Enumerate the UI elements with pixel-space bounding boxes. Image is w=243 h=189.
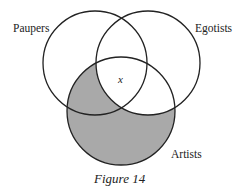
artists-label: Artists <box>171 149 202 161</box>
paupers-label: Paupers <box>13 23 49 35</box>
egotists-label: Egotists <box>195 23 232 35</box>
figure-caption: Figure 14 <box>94 172 145 185</box>
x-marker: x <box>118 74 123 85</box>
